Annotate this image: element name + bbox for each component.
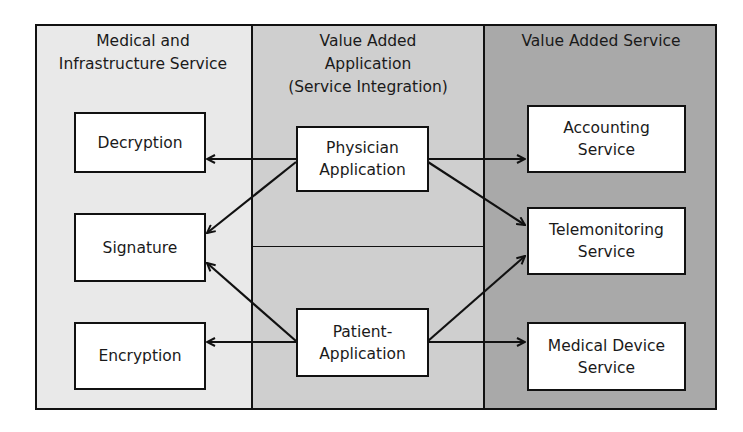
node-signature: Signature — [74, 213, 206, 282]
node-label: Patient- — [319, 321, 406, 343]
node-label: Medical Device — [548, 335, 665, 357]
node-decryption: Decryption — [74, 112, 206, 173]
node-label: Service — [549, 241, 664, 263]
node-label: Telemonitoring — [549, 219, 664, 241]
node-label: Signature — [103, 237, 178, 259]
node-accounting-service: Accounting Service — [527, 105, 686, 173]
node-label: Decryption — [97, 132, 182, 154]
node-label: Service — [563, 139, 650, 161]
node-label: Physician — [319, 137, 406, 159]
node-encryption: Encryption — [74, 322, 206, 390]
node-label: Application — [319, 343, 406, 365]
node-medical-device-service: Medical Device Service — [527, 322, 686, 391]
node-patient-application: Patient- Application — [296, 308, 429, 377]
node-label: Accounting — [563, 117, 650, 139]
node-physician-application: Physician Application — [296, 126, 429, 192]
node-label: Encryption — [98, 345, 181, 367]
node-telemonitoring-service: Telemonitoring Service — [527, 207, 686, 275]
node-label: Application — [319, 159, 406, 181]
node-label: Service — [548, 357, 665, 379]
